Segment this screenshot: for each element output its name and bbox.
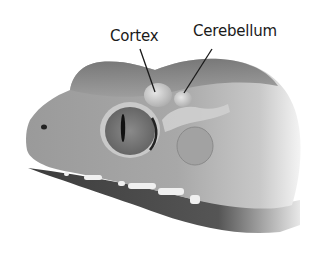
anatomy-figure: Cortex Cerebellum xyxy=(0,0,309,262)
label-cerebellum: Cerebellum xyxy=(193,22,277,40)
label-cortex: Cortex xyxy=(110,27,158,45)
brain-cerebellum xyxy=(174,91,192,107)
tympanum xyxy=(177,127,213,165)
brain-cortex xyxy=(144,83,172,107)
pupil xyxy=(121,114,125,142)
eye xyxy=(105,107,155,155)
nostril xyxy=(41,125,47,130)
